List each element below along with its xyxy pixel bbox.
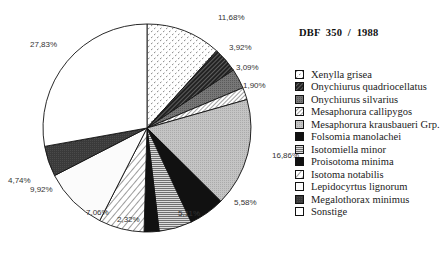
slice-percent-label: 2,32% bbox=[117, 215, 140, 224]
legend-swatch-icon bbox=[295, 70, 304, 79]
legend-label: Mesaphorura krausbaueri Grp. bbox=[311, 119, 440, 130]
legend-swatch-icon bbox=[295, 207, 304, 216]
legend-item-folsomia-manolachei: Folsomia manolachei bbox=[295, 131, 440, 144]
legend-label: Lepidocyrtus lignorum bbox=[311, 181, 408, 192]
slice-percent-label: 9,92% bbox=[30, 185, 53, 194]
legend-swatch-icon bbox=[295, 107, 304, 116]
legend: Xenylla grisea Onychiurus quadriocellatu… bbox=[295, 68, 440, 218]
legend-item-xenylla-grisea: Xenylla grisea bbox=[295, 68, 440, 81]
legend-swatch-icon bbox=[295, 170, 304, 179]
legend-item-lepidocyrtus-lignorum: Lepidocyrtus lignorum bbox=[295, 181, 440, 194]
slice-percent-label: 27,83% bbox=[30, 40, 57, 49]
legend-item-sonstige: Sonstige bbox=[295, 206, 440, 219]
slice-percent-label: 3,92% bbox=[229, 43, 252, 52]
legend-item-proisotoma-minima: Proisotoma minima bbox=[295, 156, 440, 169]
slice-percent-label: 4,74% bbox=[8, 176, 31, 185]
legend-item-isotomiella-minor: Isotomiella minor bbox=[295, 143, 440, 156]
slice-percent-label: 7,06% bbox=[86, 208, 109, 217]
legend-label: Sonstige bbox=[311, 206, 347, 217]
slice-percent-label: 3,09% bbox=[236, 63, 259, 72]
legend-swatch-icon bbox=[295, 145, 304, 154]
legend-swatch-icon bbox=[295, 120, 304, 129]
legend-label: Mesaphorura callipygos bbox=[311, 106, 412, 117]
slice-percent-label: 11,68% bbox=[218, 13, 245, 22]
legend-item-isotoma-notabilis: Isotoma notabilis bbox=[295, 168, 440, 181]
legend-label: Onychiurus silvarius bbox=[311, 94, 398, 105]
slice-percent-label: 1,90% bbox=[243, 81, 266, 90]
pie-slice-sonstige bbox=[43, 24, 147, 146]
legend-swatch-icon bbox=[295, 132, 304, 141]
legend-label: Isotoma notabilis bbox=[311, 169, 384, 180]
legend-swatch-icon bbox=[295, 157, 304, 166]
slice-percent-label: 5,11% bbox=[178, 209, 200, 218]
legend-item-mesaphorura-callipygos: Mesaphorura callipygos bbox=[295, 106, 440, 119]
legend-item-megalothorax-minimus: Megalothorax minimus bbox=[295, 193, 440, 206]
legend-swatch-icon bbox=[295, 195, 304, 204]
legend-item-onychiurus-silvarius: Onychiurus silvarius bbox=[295, 93, 440, 106]
legend-swatch-icon bbox=[295, 182, 304, 191]
legend-label: Isotomiella minor bbox=[311, 144, 386, 155]
chart-title: DBF 350 / 1988 bbox=[299, 27, 378, 38]
legend-label: Folsomia manolachei bbox=[311, 131, 401, 142]
legend-label: Xenylla grisea bbox=[311, 69, 372, 80]
legend-swatch-icon bbox=[295, 95, 304, 104]
legend-label: Onychiurus quadriocellatus bbox=[311, 81, 427, 92]
pie-slices bbox=[43, 24, 251, 232]
legend-label: Proisotoma minima bbox=[311, 156, 394, 167]
slice-percent-label: 5,58% bbox=[234, 198, 257, 207]
legend-label: Megalothorax minimus bbox=[311, 194, 409, 205]
legend-item-mesaphorura-krausbaueri: Mesaphorura krausbaueri Grp. bbox=[295, 118, 440, 131]
legend-swatch-icon bbox=[295, 82, 304, 91]
legend-item-onychiurus-quadriocellatus: Onychiurus quadriocellatus bbox=[295, 81, 440, 94]
